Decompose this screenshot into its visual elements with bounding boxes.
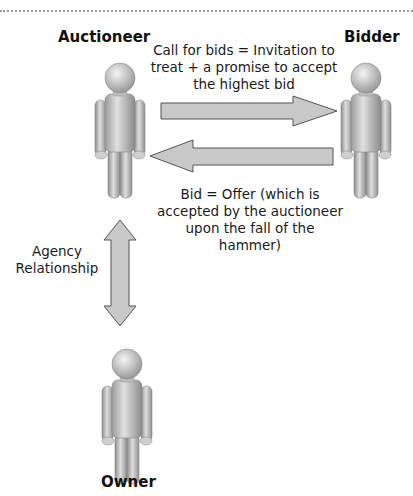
double-arrow-vertical-icon — [104, 220, 136, 326]
owner-label: Owner — [101, 473, 156, 491]
agency-relationship-text: Agency Relationship — [12, 243, 102, 277]
call-for-bids-text: Call for bids = Invitation to treat + a … — [148, 42, 340, 93]
auctioneer-label: Auctioneer — [58, 28, 150, 46]
bid-offer-text: Bid = Offer (which is accepted by the au… — [150, 186, 350, 254]
auctioneer-figure-icon — [95, 63, 145, 198]
arrow-left-icon — [150, 140, 333, 172]
owner-figure-icon — [102, 349, 152, 484]
bidder-label: Bidder — [344, 28, 400, 46]
arrow-right-icon — [161, 96, 337, 126]
bidder-figure-icon — [341, 63, 391, 198]
